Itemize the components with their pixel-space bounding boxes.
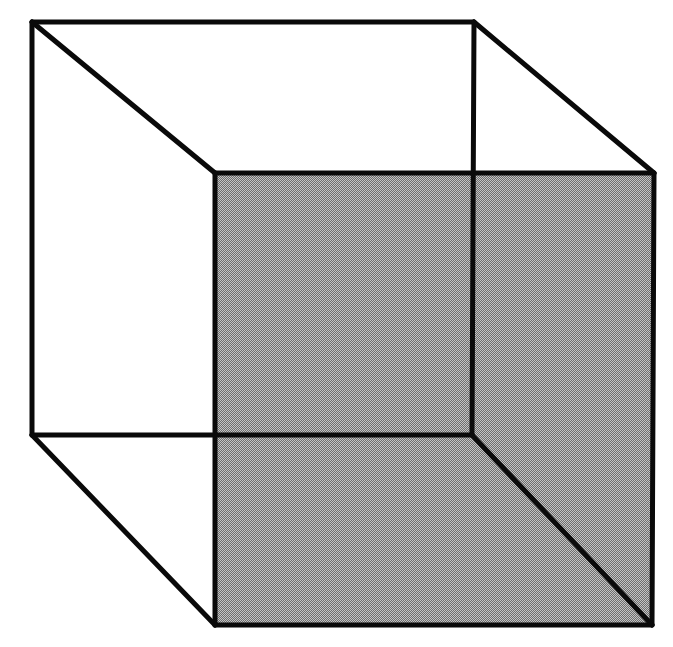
edge-back-right [472,22,474,435]
edge-connector-bottom-left [32,435,215,625]
edge-connector-top-left [32,22,215,173]
edge-connector-top-right [474,22,654,173]
edge-front-right [652,173,654,625]
necker-cube-diagram [0,0,673,647]
